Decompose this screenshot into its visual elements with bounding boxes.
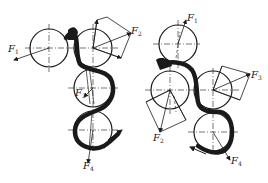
right-label-f2: F2 — [153, 133, 164, 144]
left-label-f4: F4 — [83, 161, 94, 172]
left-label-f3: F3 — [75, 88, 86, 99]
left-label-f1: F1 — [8, 44, 19, 55]
left-assembly — [14, 17, 131, 163]
left-label-f2: F2 — [131, 26, 142, 37]
right-label-f1: F1 — [187, 13, 198, 24]
right-label-f3: F3 — [251, 70, 262, 81]
gear-force-diagram: F1 F2 F3 F4 F1 F2 F3 F4 — [0, 0, 268, 183]
right-label-f4: F4 — [231, 156, 242, 167]
